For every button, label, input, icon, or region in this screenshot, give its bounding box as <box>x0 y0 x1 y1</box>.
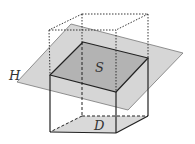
label-s: S <box>95 60 104 75</box>
label-d: D <box>93 118 105 133</box>
label-h: H <box>8 68 21 83</box>
prism-plane-diagram: H S D <box>0 0 195 144</box>
